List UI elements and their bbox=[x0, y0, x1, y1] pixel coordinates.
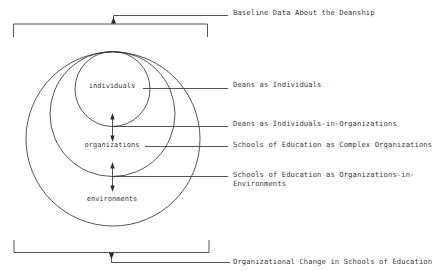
top-arrow-head-icon bbox=[111, 17, 116, 24]
label-schools-organizations-in-environments-1: Schools of Education as Organizations-in… bbox=[233, 170, 415, 179]
bottom-connector-line bbox=[112, 253, 231, 263]
bottom-bracket bbox=[14, 240, 209, 253]
label-deans-individuals-in-organizations: Deans as Individuals-in-Organizations bbox=[233, 119, 397, 128]
label-baseline-data: Baseline Data About the Deanship bbox=[233, 8, 375, 17]
label-deans-as-individuals: Deans as Individuals bbox=[233, 80, 322, 89]
label-organizations: organizations bbox=[85, 141, 140, 149]
bottom-arrow-head-icon bbox=[109, 253, 114, 260]
label-organizational-change: Organizational Change in Schools of Educ… bbox=[233, 257, 432, 266]
label-individuals: individuals bbox=[89, 82, 135, 90]
top-connector-line bbox=[114, 16, 229, 25]
arrow-up-icon bbox=[110, 113, 114, 120]
arrow-up-icon bbox=[110, 162, 114, 169]
arrow-down-icon bbox=[110, 186, 114, 193]
label-schools-complex-organizations: Schools of Education as Complex Organiza… bbox=[233, 140, 432, 149]
top-bracket bbox=[14, 24, 208, 37]
label-schools-organizations-in-environments-2: Environments bbox=[233, 179, 286, 188]
label-environments: environments bbox=[87, 195, 138, 203]
